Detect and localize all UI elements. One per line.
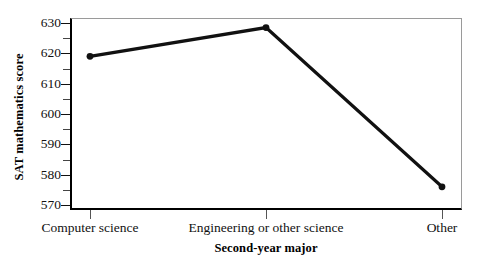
- y-axis-title: SAT mathematics score: [8, 12, 30, 222]
- data-point-marker: [87, 53, 94, 60]
- series-line: [90, 28, 442, 187]
- y-major-tick: [61, 53, 70, 54]
- x-major-tick: [266, 210, 267, 219]
- y-tick-label: 630: [28, 16, 61, 30]
- y-tick-label: 600: [28, 107, 61, 121]
- y-tick-label: 580: [28, 168, 61, 182]
- x-major-tick: [442, 210, 443, 219]
- x-tick-label: Other: [427, 221, 458, 236]
- y-minor-tick: [63, 129, 70, 130]
- y-major-tick: [61, 205, 70, 206]
- y-minor-tick: [63, 69, 70, 70]
- y-major-tick: [61, 23, 70, 24]
- y-minor-tick: [63, 160, 70, 161]
- x-major-tick: [90, 210, 91, 219]
- x-tick-label: Engineering or other science: [189, 221, 344, 236]
- y-tick-label: 590: [28, 137, 61, 151]
- data-point-marker: [439, 183, 446, 190]
- x-tick-label: Computer science: [41, 221, 138, 236]
- y-major-tick: [61, 144, 70, 145]
- y-minor-tick: [63, 99, 70, 100]
- y-minor-tick: [63, 190, 70, 191]
- y-minor-tick: [63, 38, 70, 39]
- y-tick-label: 570: [28, 198, 61, 212]
- y-major-tick: [61, 84, 70, 85]
- plot-series-layer: [70, 18, 462, 210]
- y-tick-label: 610: [28, 77, 61, 91]
- data-point-marker: [263, 24, 270, 31]
- y-major-tick: [61, 175, 70, 176]
- y-major-tick: [61, 114, 70, 115]
- y-tick-label: 620: [28, 46, 61, 60]
- chart-figure: SAT mathematics score 630620610600590580…: [0, 0, 478, 271]
- x-axis-title: Second-year major: [70, 241, 462, 256]
